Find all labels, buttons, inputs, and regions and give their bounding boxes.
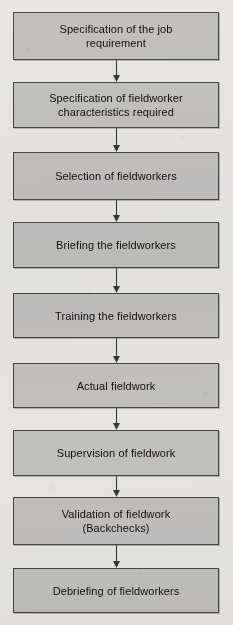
- flowchart-node-2: Specification of fieldworker characteris…: [13, 82, 219, 128]
- flowchart-node-5: Training the fieldworkers: [13, 293, 219, 338]
- flow-arrow-8: [0, 545, 233, 568]
- flowchart-node-label: Selection of fieldworkers: [49, 169, 183, 183]
- flowchart-node-4: Briefing the fieldworkers: [13, 222, 219, 268]
- flowchart-node-label: Specification of the job requirement: [53, 22, 178, 50]
- flowchart-node-8: Validation of fieldwork (Backchecks): [13, 497, 219, 545]
- flow-arrow-3: [0, 200, 233, 222]
- flow-arrow-6: [0, 408, 233, 430]
- flowchart-node-9: Debriefing of fieldworkers: [13, 568, 219, 613]
- flow-arrow-4: [0, 268, 233, 293]
- flowchart-node-label: Training the fieldworkers: [49, 309, 183, 323]
- flowchart-node-label: Debriefing of fieldworkers: [47, 584, 186, 598]
- flowchart-node-label: Validation of fieldwork (Backchecks): [56, 507, 177, 535]
- flowchart-node-6: Actual fieldwork: [13, 363, 219, 408]
- flowchart-node-label: Briefing the fieldworkers: [50, 238, 182, 252]
- flow-arrow-5: [0, 338, 233, 363]
- flowchart-node-3: Selection of fieldworkers: [13, 152, 219, 200]
- flow-arrow-7: [0, 476, 233, 497]
- flow-arrow-2: [0, 128, 233, 152]
- flowchart-diagram: Specification of the job requirementSpec…: [0, 0, 233, 625]
- flowchart-node-7: Supervision of fieldwork: [13, 430, 219, 476]
- flow-arrow-1: [0, 60, 233, 82]
- flowchart-node-label: Actual fieldwork: [71, 379, 162, 393]
- flowchart-node-1: Specification of the job requirement: [13, 12, 219, 60]
- flowchart-node-label: Supervision of fieldwork: [51, 446, 182, 460]
- flowchart-node-label: Specification of fieldworker characteris…: [43, 91, 189, 119]
